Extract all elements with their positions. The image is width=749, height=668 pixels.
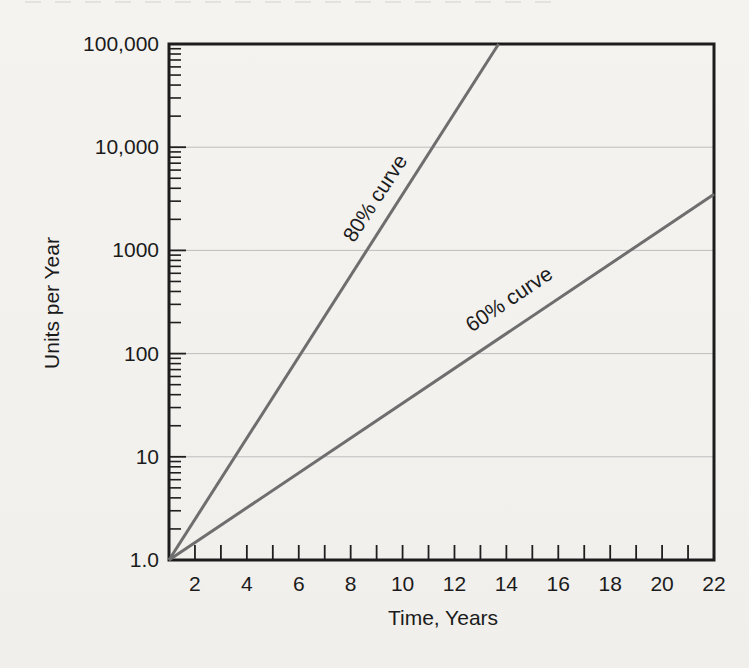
y-tick-label: 1000 [112,238,159,261]
x-tick-label: 14 [495,572,519,595]
x-tick-label: 20 [650,572,673,595]
learning-curve-figure: 80% curve60% curve1.010100100010,000100,… [0,0,749,668]
series-line-80-curve [169,44,499,560]
y-tick-label: 10,000 [95,135,159,158]
plot-border [169,44,714,560]
series-label-60-curve: 60% curve [461,262,556,337]
series-line-60-curve [169,194,714,560]
y-tick-label: 1.0 [130,548,159,571]
x-axis-title: Time, Years [388,606,498,630]
x-tick-label: 12 [443,572,466,595]
x-tick-label: 22 [702,572,725,595]
x-tick-label: 2 [189,572,201,595]
y-tick-label: 10 [136,445,159,468]
x-tick-label: 16 [547,572,570,595]
x-tick-label: 4 [241,572,253,595]
x-tick-label: 18 [599,572,622,595]
x-tick-label: 6 [293,572,305,595]
y-tick-label: 100 [124,342,159,365]
x-tick-label: 8 [345,572,357,595]
x-tick-label: 10 [391,572,414,595]
chart-canvas: 80% curve60% curve1.010100100010,000100,… [0,0,749,668]
y-axis-title: Units per Year [40,237,64,369]
y-tick-label: 100,000 [83,32,159,55]
